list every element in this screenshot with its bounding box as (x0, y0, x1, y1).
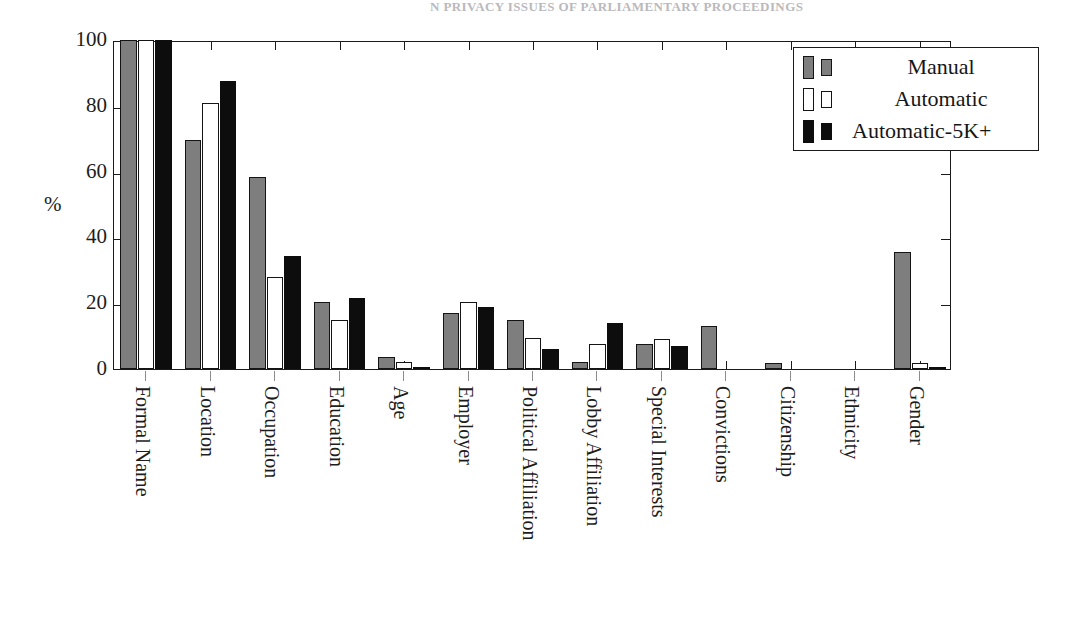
bar-automatic (331, 320, 348, 369)
bar-automatic5k (929, 367, 946, 369)
x-axis-label-convictions: Convictions (713, 386, 733, 483)
x-axis-label-age: Age (391, 386, 411, 419)
x-tick-mark (661, 371, 662, 381)
bar-automatic (525, 338, 542, 369)
bar-manual (636, 344, 653, 369)
x-tick-mark (145, 371, 146, 381)
legend-swatches-manual (794, 56, 850, 79)
x-tick-mark-bottom (791, 361, 792, 369)
x-tick-mark (403, 371, 404, 381)
bar-manual (572, 362, 589, 369)
legend-label-automatic-5k: Automatic-5K+ (850, 118, 1038, 144)
y-tick-label: 100 (61, 29, 107, 50)
bar-manual (314, 302, 331, 369)
x-axis-label-formal-name: Formal Name (133, 386, 153, 497)
x-tick-mark (210, 371, 211, 381)
legend-row-automatic: Automatic (794, 83, 1038, 115)
x-tick-mark-top (404, 42, 405, 50)
legend-swatch-bar-icon (821, 91, 832, 108)
legend-swatch-bar-icon (803, 88, 814, 111)
x-axis-label-occupation: Occupation (262, 386, 282, 478)
legend-row-automatic-5k: Automatic-5K+ (794, 115, 1038, 147)
bar-automatic (589, 344, 606, 369)
y-tick-label: 60 (61, 161, 107, 182)
bar-manual (765, 363, 782, 369)
x-tick-mark-top (211, 42, 212, 50)
x-axis-label-location: Location (198, 386, 218, 457)
x-tick-mark-top (726, 42, 727, 50)
y-tick-label: 20 (61, 292, 107, 313)
y-tick-label: 40 (61, 226, 107, 247)
bar-automatic5k (413, 367, 430, 369)
legend-swatch-bar-icon (803, 56, 814, 79)
bar-automatic (654, 339, 671, 369)
bar-automatic5k (478, 307, 495, 370)
bar-automatic (912, 363, 929, 369)
bar-automatic (267, 277, 284, 369)
legend-label-manual: Manual (850, 54, 1038, 80)
x-tick-mark-bottom (726, 361, 727, 369)
x-tick-mark (725, 371, 726, 381)
x-tick-mark (596, 371, 597, 381)
x-tick-mark-top (340, 42, 341, 50)
bar-automatic5k (155, 40, 172, 369)
bar-automatic (396, 362, 413, 369)
x-axis-label-citizenship: Citizenship (778, 386, 798, 477)
x-tick-mark (274, 371, 275, 381)
y-tick-mark (941, 305, 950, 306)
bar-automatic5k (542, 349, 559, 369)
bar-automatic5k (284, 256, 301, 370)
x-tick-mark (339, 371, 340, 381)
y-tick-label: 80 (61, 95, 107, 116)
y-tick-mark (941, 174, 950, 175)
y-tick-mark (941, 239, 950, 240)
bar-automatic (138, 40, 155, 369)
x-tick-mark (919, 371, 920, 381)
x-axis-label-special-interests: Special Interests (649, 386, 669, 518)
bar-manual (894, 252, 911, 369)
bar-automatic (460, 302, 477, 369)
x-tick-mark (532, 371, 533, 381)
legend-label-automatic: Automatic (850, 86, 1038, 112)
x-axis-label-political-affiliation: Political Affiliation (520, 386, 540, 541)
x-tick-mark-bottom (855, 361, 856, 369)
x-tick-mark-top (469, 42, 470, 50)
x-axis-label-lobby-affiliation: Lobby Affiliation (584, 386, 604, 526)
bar-manual (185, 140, 202, 369)
x-tick-mark (790, 371, 791, 381)
legend: Manual Automatic Automatic-5K+ (793, 47, 1039, 151)
bar-manual (378, 357, 395, 370)
x-tick-mark-top (662, 42, 663, 50)
legend-swatch-bar-icon (821, 123, 832, 140)
bar-manual (120, 40, 137, 369)
legend-row-manual: Manual (794, 51, 1038, 83)
x-tick-mark-top (533, 42, 534, 50)
bar-manual (443, 313, 460, 369)
x-axis-label-employer: Employer (456, 386, 476, 465)
bar-automatic5k (671, 346, 688, 369)
legend-swatches-automatic (794, 88, 850, 111)
legend-swatches-automatic-5k (794, 120, 850, 143)
y-axis-tick-labels: 020406080100 (55, 0, 107, 329)
bar-automatic5k (349, 298, 366, 369)
bar-manual (701, 326, 718, 369)
bar-manual (507, 320, 524, 369)
x-tick-mark (854, 371, 855, 381)
bar-automatic5k (607, 323, 624, 369)
x-axis-label-ethnicity: Ethnicity (842, 386, 862, 459)
page-running-header: N PRIVACY ISSUES OF PARLIAMENTARY PROCEE… (430, 0, 1070, 13)
bar-manual (249, 177, 266, 369)
bar-automatic (202, 103, 219, 369)
x-tick-mark (468, 371, 469, 381)
x-tick-mark-top (791, 42, 792, 50)
y-tick-label: 0 (61, 358, 107, 379)
x-axis-label-education: Education (327, 386, 347, 467)
figure-root: N PRIVACY ISSUES OF PARLIAMENTARY PROCEE… (0, 0, 1078, 626)
legend-swatch-bar-icon (803, 120, 814, 143)
legend-swatch-bar-icon (821, 59, 832, 76)
bar-automatic5k (220, 81, 237, 369)
x-axis-label-gender: Gender (907, 386, 927, 445)
x-tick-mark-top (597, 42, 598, 50)
x-tick-mark-top (275, 42, 276, 50)
